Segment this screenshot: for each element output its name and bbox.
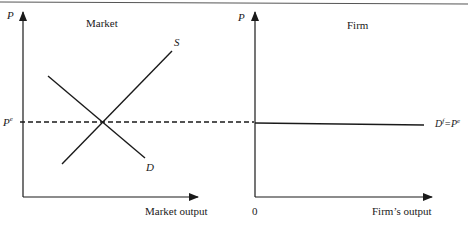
firm-origin-label: 0: [252, 206, 258, 217]
price-label-sup: e: [10, 115, 13, 123]
demand-label: D: [146, 162, 154, 173]
supply-curve: [62, 51, 172, 164]
firm-title: Firm: [347, 20, 368, 31]
firm-demand-eq: =P: [444, 118, 457, 129]
price-label-base: P: [3, 116, 10, 128]
demand-curve: [48, 76, 145, 158]
firm-demand-label: Df=Pe: [435, 119, 460, 129]
diagram-canvas: [0, 0, 470, 225]
market-x-axis-label: Market output: [145, 206, 208, 217]
top-rule: [0, 2, 468, 4]
firm-demand-curve: [255, 123, 424, 125]
firm-demand-sup2: e: [457, 117, 460, 125]
market-y-axis-label: P: [7, 10, 14, 21]
firm-x-axis-label: Firm’s output: [372, 206, 432, 217]
equilibrium-price-label: Pe: [3, 117, 13, 128]
market-title: Market: [86, 18, 118, 29]
supply-label: S: [174, 37, 180, 48]
firm-y-axis-label: P: [238, 12, 245, 23]
